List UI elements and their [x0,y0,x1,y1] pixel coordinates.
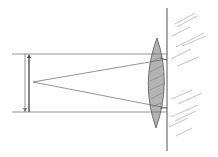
ray-lower [33,82,167,108]
arrow-head-down-icon [23,108,27,112]
ray-upper [33,59,167,82]
arrow-head-up-icon [27,54,31,58]
lens [148,38,164,128]
lens-diagram [0,0,218,157]
wall-hatching [169,13,206,136]
